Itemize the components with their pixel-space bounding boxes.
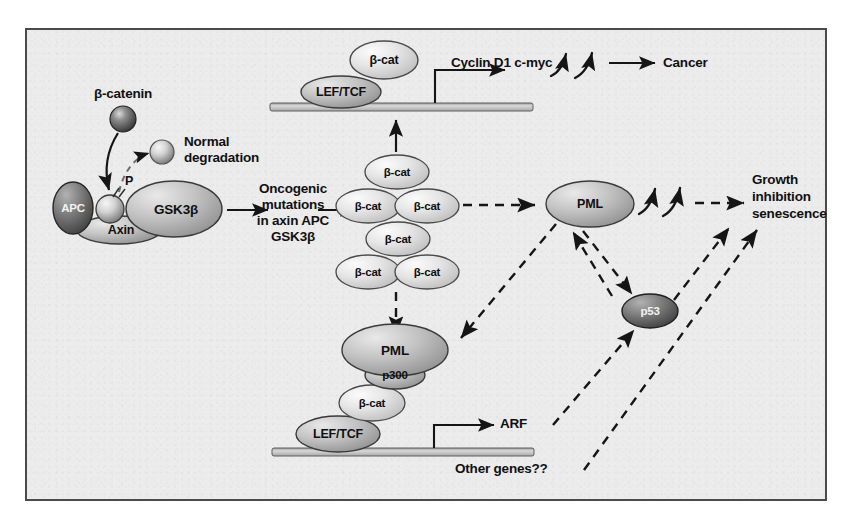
oval-lef-tcf-top [301,76,381,108]
beta-catenin-free [110,106,136,132]
dna-bar-top [270,103,533,111]
label-cyclin-d1-c-myc: Cyclin D1 c-myc [451,55,552,70]
oval-beta-cat-pool-2 [336,189,400,223]
beta-cat-pool [336,155,459,289]
pml-node-right [546,181,634,227]
degradation-ball [150,140,174,164]
label-oncogenic-line2: mutations [262,197,325,212]
arrow-transcription-top [435,70,505,103]
label-oncogenic-line4: GSK3β [271,229,315,244]
oval-p53 [622,294,678,328]
arrow-p53-to-pml [573,232,612,296]
label-normal-degradation-line2: degradation [184,150,259,165]
oval-pml-right [546,181,634,227]
squiggle-arrows-pml [639,188,680,216]
oval-apc [53,182,93,234]
oval-beta-cat-pool-6 [395,255,459,289]
pathway-figure: β-cat LEF/TCF APC GSK3β Axin β-cat β-cat… [0,0,855,518]
label-phosphate: P [125,174,133,188]
arrow-arf-to-p53 [553,330,634,425]
bottom-transcription-complex [272,324,534,456]
label-growth-line2: inhibition [752,189,811,204]
arrow-pmlright-to-bottom-complex [461,224,556,338]
oval-beta-cat-top [350,41,418,79]
p53-node [622,294,678,328]
squiggle-arrows-top [551,53,592,78]
oval-pml-bottom [342,324,448,376]
label-other-genes: Other genes?? [455,461,548,476]
circle-beta-catenin-bound [96,195,124,223]
label-cancer: Cancer [663,55,708,70]
arrow-transcription-bottom [434,425,494,448]
arrow-betacatenin-to-complex [106,133,118,190]
label-oncogenic-line3: in axin APC [257,213,329,228]
arrow-othergenes-to-growth [584,230,757,470]
label-growth-line3: senescence [752,206,827,221]
label-normal-degradation-line1: Normal [184,134,229,149]
label-oncogenic-line1: Oncogenic [259,181,327,196]
diagram-vector-layer [0,0,855,518]
oval-gsk3b [126,181,222,237]
label-beta-catenin: β-catenin [94,86,152,101]
oval-beta-cat-pool-5 [336,255,400,289]
label-arf: ARF [500,416,527,431]
label-growth-line1: Growth [752,172,798,187]
destruction-complex [53,181,222,244]
oval-beta-cat-pool-4 [366,222,430,256]
top-transcription-complex [270,41,533,111]
oval-beta-cat-bottom [339,385,405,421]
dna-bar-bottom [272,448,534,456]
arrow-p53-to-growth [674,228,729,300]
oval-beta-cat-pool-1 [365,155,429,189]
oval-beta-cat-pool-3 [395,189,459,223]
